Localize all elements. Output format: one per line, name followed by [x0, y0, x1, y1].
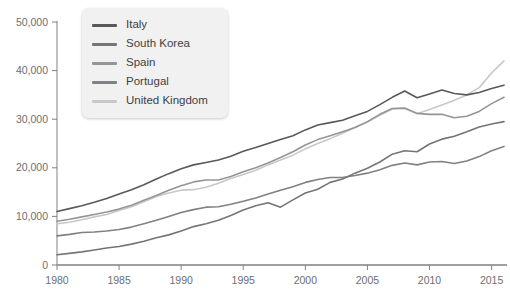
legend-item-portugal[interactable]: Portugal — [92, 73, 218, 91]
legend-item-label: South Korea — [126, 38, 190, 50]
legend-item-label: United Kingdom — [126, 95, 208, 107]
series-line-south-korea — [57, 122, 504, 255]
x-tick-label: 2010 — [418, 274, 442, 286]
x-axis: 19801985199019952000200520102015 — [45, 265, 507, 286]
legend-item-label: Spain — [126, 57, 155, 69]
chart-legend: ItalySouth KoreaSpainPortugalUnited King… — [82, 8, 228, 118]
chart-plot-area: 010,00020,00030,00040,00050,000 19801985… — [0, 0, 510, 304]
x-tick-label: 1985 — [107, 274, 131, 286]
y-tick-label: 10,000 — [16, 210, 48, 222]
x-tick-label: 2015 — [480, 274, 504, 286]
legend-item-label: Portugal — [126, 76, 169, 88]
legend-item-label: Italy — [126, 19, 147, 31]
line-chart: 010,00020,00030,00040,00050,000 19801985… — [0, 0, 510, 304]
y-tick-label: 20,000 — [16, 161, 48, 173]
legend-swatch-icon — [92, 62, 117, 65]
legend-swatch-icon — [92, 81, 117, 84]
legend-item-italy[interactable]: Italy — [92, 16, 218, 34]
legend-item-united-kingdom[interactable]: United Kingdom — [92, 92, 218, 110]
legend-swatch-icon — [92, 24, 117, 27]
x-tick-label: 1980 — [45, 274, 69, 286]
y-tick-label: 0 — [42, 259, 48, 271]
x-tick-label: 2005 — [356, 274, 380, 286]
y-axis: 010,00020,00030,00040,00050,000 — [16, 16, 57, 271]
legend-item-spain[interactable]: Spain — [92, 54, 218, 72]
y-tick-label: 50,000 — [16, 16, 48, 28]
y-tick-label: 40,000 — [16, 64, 48, 76]
x-tick-label: 1995 — [232, 274, 256, 286]
legend-swatch-icon — [92, 100, 117, 103]
x-tick-label: 2000 — [294, 274, 318, 286]
y-tick-label: 30,000 — [16, 113, 48, 125]
legend-swatch-icon — [92, 43, 117, 46]
legend-item-south-korea[interactable]: South Korea — [92, 35, 218, 53]
x-tick-label: 1990 — [169, 274, 193, 286]
